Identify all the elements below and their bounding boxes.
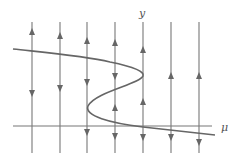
arrow-down-icon — [84, 79, 90, 86]
arrow-down-icon — [112, 73, 118, 80]
arrow-down-icon — [29, 90, 35, 97]
arrow-up-icon — [112, 104, 118, 111]
arrow-up-icon — [84, 37, 90, 44]
arrow-up-icon — [196, 72, 202, 79]
arrow-down-icon — [168, 134, 174, 141]
arrow-up-icon — [112, 39, 118, 46]
arrow-up-icon — [168, 72, 174, 79]
mu-axis-label: μ — [221, 121, 228, 134]
arrow-up-icon — [57, 32, 63, 39]
arrow-up-icon — [140, 98, 146, 105]
arrow-down-icon — [112, 133, 118, 140]
phase-lines — [29, 22, 202, 153]
equilibrium-curve — [13, 49, 215, 135]
y-axis-label: y — [138, 7, 146, 20]
bifurcation-diagram: y μ — [0, 0, 235, 163]
arrow-down-icon — [57, 85, 63, 92]
arrow-down-icon — [196, 139, 202, 146]
diagram-canvas: y μ — [0, 0, 235, 163]
arrow-down-icon — [84, 129, 90, 136]
arrow-up-icon — [29, 28, 35, 35]
arrow-up-icon — [140, 46, 146, 53]
arrow-down-icon — [140, 134, 146, 141]
